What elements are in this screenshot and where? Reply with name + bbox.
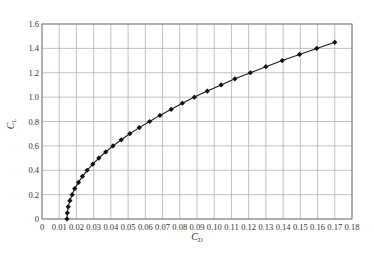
- x-tick-label: 0: [40, 222, 44, 232]
- chart: 00.010.020.030.040.050.060.070.080.090.1…: [0, 0, 374, 256]
- x-tick-label: 0.18: [345, 222, 360, 232]
- diamond-marker: [205, 88, 210, 93]
- y-tick-label: 1.6: [28, 19, 39, 29]
- diamond-marker: [280, 58, 285, 63]
- diamond-marker: [147, 119, 152, 124]
- x-tick-label: 0.12: [241, 222, 256, 232]
- x-tick-label: 0.14: [276, 222, 292, 232]
- diamond-marker: [192, 95, 197, 100]
- diamond-marker: [65, 210, 70, 215]
- y-axis-label: CL: [5, 118, 17, 129]
- diamond-marker: [66, 204, 71, 209]
- x-tick-label: 0.07: [155, 222, 170, 232]
- diamond-marker: [70, 192, 75, 197]
- y-tick-label: 1.4: [28, 43, 39, 53]
- diamond-marker: [157, 113, 162, 118]
- y-tick-label: 0.6: [28, 141, 39, 151]
- x-tick-label: 0.11: [224, 222, 239, 232]
- x-tick-label: 0.15: [293, 222, 308, 232]
- x-axis-label: CD: [191, 231, 203, 243]
- x-tick-label: 0.05: [121, 222, 136, 232]
- x-tick-label: 0.08: [172, 222, 187, 232]
- x-axis-ticks: 00.010.020.030.040.050.060.070.080.090.1…: [40, 222, 360, 232]
- x-tick-label: 0.02: [69, 222, 84, 232]
- y-tick-label: 0: [35, 214, 39, 224]
- diamond-marker: [67, 198, 72, 203]
- y-axis-ticks: 00.20.40.60.81.01.21.41.6: [28, 19, 39, 224]
- diamond-marker: [297, 52, 302, 57]
- y-tick-label: 0.4: [28, 165, 39, 175]
- diamond-marker: [180, 101, 185, 106]
- diamond-marker: [64, 216, 69, 221]
- x-tick-label: 0.13: [258, 222, 273, 232]
- diamond-marker: [263, 64, 268, 69]
- x-tick-label: 0.10: [207, 222, 222, 232]
- x-tick-label: 0.04: [103, 222, 119, 232]
- diamond-marker: [169, 107, 174, 112]
- diamond-marker: [332, 40, 337, 45]
- y-tick-label: 1.0: [28, 92, 39, 102]
- x-tick-label: 0.03: [86, 222, 101, 232]
- y-tick-label: 1.2: [28, 68, 39, 78]
- y-tick-label: 0.2: [28, 190, 39, 200]
- diamond-marker: [314, 46, 319, 51]
- x-tick-label: 0.17: [327, 222, 342, 232]
- diamond-marker: [232, 76, 237, 81]
- drag-polar-line: [67, 42, 335, 219]
- diamond-marker: [219, 82, 224, 87]
- y-tick-label: 0.8: [28, 117, 39, 127]
- x-tick-label: 0.16: [310, 222, 325, 232]
- grid: [42, 24, 352, 219]
- x-tick-label: 0.06: [138, 222, 153, 232]
- x-tick-label: 0.01: [52, 222, 67, 232]
